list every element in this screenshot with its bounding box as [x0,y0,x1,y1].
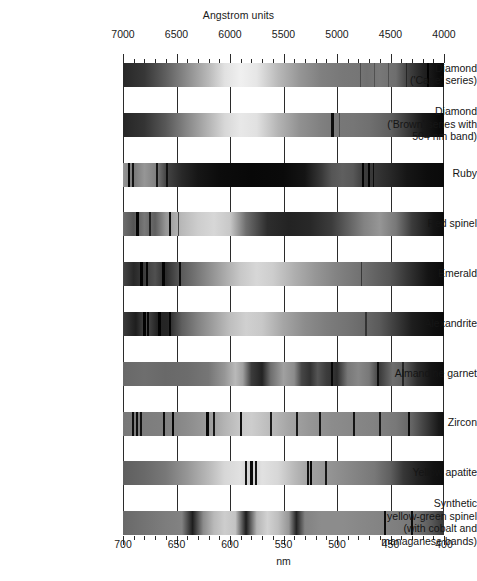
top-tick-labels: 7000650060005500500045004000 [0,28,477,41]
gridline [284,386,285,412]
gridline [391,336,392,362]
absorption-line [296,412,298,436]
row-label-line: ('Cape' series) [360,74,477,86]
absorption-line [245,461,247,485]
gridline [230,485,231,511]
gridline [123,485,124,511]
row-label-line: Diamond [360,105,477,117]
absorption-line [162,262,165,286]
gridline [230,236,231,262]
row-label-line: Yellow apatite [360,466,477,478]
gridline [337,236,338,262]
row-label-diamond-cape-series: Diamond('Cape' series) [360,62,477,87]
bottom-axis-title: nm [123,555,444,567]
gridline [177,336,178,362]
gridline [443,286,444,312]
gridline [123,286,124,312]
row-label-line: Diamond [360,62,477,74]
gridline [177,236,178,262]
gridline [391,286,392,312]
gridline [284,87,285,113]
gridline [391,436,392,462]
absorption-line [169,312,172,336]
gridline [337,137,338,163]
absorption-line [146,262,148,286]
gridline [337,436,338,462]
gridline [123,386,124,412]
gridline [284,236,285,262]
absorption-line [140,262,143,286]
axis-tick [123,54,124,63]
gridline [230,386,231,412]
absorption-line [178,212,180,236]
gridline [230,87,231,113]
absorption-line [319,412,321,436]
gridline [230,137,231,163]
absorption-line [307,461,309,485]
absorption-line [206,412,209,436]
absorption-line [213,412,215,436]
absorption-line [310,461,313,485]
tick-label: 500 [328,538,346,551]
top-axis-title: Angstrom units [0,9,477,21]
tick-label: 6000 [218,28,241,41]
absorption-line [132,163,134,187]
absorption-line [143,312,146,336]
gridline [337,336,338,362]
row-label-zircon: Zircon [360,416,477,428]
tick-label: 6500 [165,28,188,41]
gridline [391,236,392,262]
gridline [443,236,444,262]
tick-label: 4500 [379,28,402,41]
gridline [123,236,124,262]
absorption-line [136,412,138,436]
row-label-line: yellow-green spinel [360,510,477,522]
absorption-line [353,412,355,436]
absorption-line [136,212,139,236]
gridline [123,87,124,113]
row-label-red-spinel: Red spinel [360,217,477,229]
axis-tick [284,54,285,63]
absorption-line [172,412,175,436]
row-label-line: Zircon [360,416,477,428]
absorption-line [156,163,158,187]
tick-label: 600 [221,538,239,551]
gridline [177,485,178,511]
gridline [284,286,285,312]
gridline [230,286,231,312]
gridline [284,336,285,362]
gridline [337,485,338,511]
absorption-line [140,412,142,436]
tick-label: 5500 [272,28,295,41]
gridline [177,187,178,213]
absorption-line [158,312,161,336]
gridline [177,137,178,163]
gridline [284,436,285,462]
row-label-line: Ruby [360,167,477,179]
gridline [284,137,285,163]
absorption-line [331,362,333,386]
tick-label: 7000 [111,28,134,41]
absorption-line [331,113,334,137]
gridline [123,436,124,462]
gridline [443,386,444,412]
absorption-line [240,412,243,436]
absorption-line [163,412,165,436]
absorption-line [179,262,181,286]
row-label-line: Almandine garnet [360,367,477,379]
gridline [177,87,178,113]
tick-label: 5000 [325,28,348,41]
gridline [177,386,178,412]
spectra-chart: Angstrom units 7000650060005500500045004… [0,0,477,581]
row-label-emerald: Emerald [360,267,477,279]
row-label-line: Alexandrite [360,317,477,329]
row-label-alexandrite: Alexandrite [360,317,477,329]
gridline [337,286,338,312]
gridline [284,485,285,511]
absorption-line [169,212,171,236]
absorption-line [270,412,272,436]
gridline [443,436,444,462]
gridline [230,336,231,362]
tick-label: 4000 [432,28,455,41]
row-label-line: Red spinel [360,217,477,229]
